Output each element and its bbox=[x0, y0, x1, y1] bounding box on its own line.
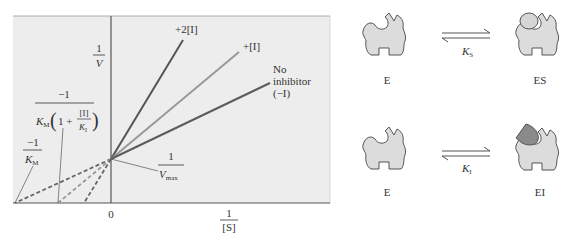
scheme-row-substrate: E KS ES bbox=[363, 13, 559, 86]
scheme-row-inhibitor: E KI EI bbox=[363, 124, 559, 198]
constant-ki: KI bbox=[461, 162, 472, 176]
label-e-2: E bbox=[384, 186, 391, 198]
enzyme-e-1 bbox=[363, 13, 406, 55]
constant-ks: KS bbox=[461, 45, 473, 59]
label-1I: +[I] bbox=[243, 40, 260, 52]
label-es: ES bbox=[534, 74, 547, 86]
equilibrium-arrows-1 bbox=[442, 29, 490, 42]
kmapp-inner-num: [I] bbox=[80, 108, 89, 118]
xaxis-den: [S] bbox=[222, 221, 235, 233]
kmapp-paren-close: ) bbox=[92, 109, 99, 132]
kmapp-num: −1 bbox=[58, 88, 70, 100]
equilibrium-arrows-2 bbox=[442, 147, 490, 160]
enzyme-es bbox=[516, 13, 559, 55]
label-e-1: E bbox=[384, 74, 391, 86]
enzyme-e-2 bbox=[363, 127, 406, 169]
label-no-inhibitor-1: No bbox=[273, 63, 287, 75]
kmapp-one-plus: 1 + bbox=[58, 115, 72, 127]
label-no-inhibitor-3: (−I) bbox=[273, 87, 291, 100]
lineweaver-burk-plot: +2[I] +[I] No inhibitor (−I) 1 V −1 KM (… bbox=[13, 16, 330, 233]
label-2I: +2[I] bbox=[175, 23, 198, 35]
label-no-inhibitor-2: inhibitor bbox=[273, 75, 311, 87]
origin-label: 0 bbox=[108, 208, 114, 220]
kmapp-paren-open: ( bbox=[50, 109, 57, 132]
xaxis-num: 1 bbox=[226, 207, 232, 219]
label-ei: EI bbox=[535, 186, 546, 198]
substrate-shape bbox=[520, 13, 538, 29]
km-num: −1 bbox=[27, 136, 39, 148]
vmax-num: 1 bbox=[168, 150, 174, 162]
yaxis-num: 1 bbox=[96, 42, 102, 54]
enzyme-ei bbox=[516, 124, 559, 170]
